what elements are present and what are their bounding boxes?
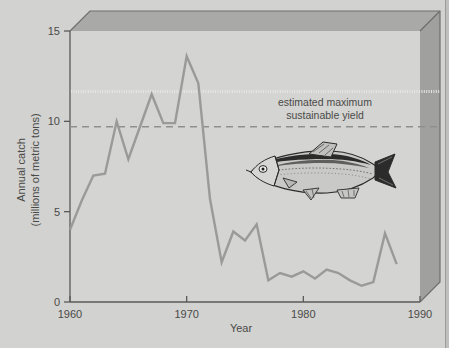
x-tick-label: 1990 xyxy=(408,308,432,320)
y-axis-tick-labels: 051015 xyxy=(48,25,60,308)
y-tick-label: 5 xyxy=(54,206,60,218)
y-tick-label: 10 xyxy=(48,115,60,127)
x-tick-label: 1960 xyxy=(58,308,82,320)
y-axis-ticks xyxy=(64,31,70,302)
y-tick-label: 15 xyxy=(48,25,60,37)
figure-anchoveta-catch-chart: 051015 1960197019801990 estimated maximu… xyxy=(0,0,449,348)
annotation-sustainable-yield: estimated maximum sustainable yield xyxy=(278,96,372,121)
x-tick-label: 1980 xyxy=(291,308,315,320)
x-axis-tick-labels: 1960197019801990 xyxy=(58,308,432,320)
x-tick-label: 1970 xyxy=(174,308,198,320)
box-side-face xyxy=(420,11,440,302)
page-right-border xyxy=(445,0,449,348)
box-top-face xyxy=(70,11,440,31)
annotation-line-1: estimated maximum xyxy=(278,96,372,108)
y-axis-title-line-1: Annual catch xyxy=(15,138,27,202)
annotation-line-2: sustainable yield xyxy=(286,109,364,121)
chart-3d-box xyxy=(70,11,440,302)
x-axis-title: Year xyxy=(230,322,253,334)
chart-canvas: 051015 1960197019801990 estimated maximu… xyxy=(0,0,449,348)
y-axis-title-line-2: (millions of metric tons) xyxy=(29,113,41,226)
y-tick-label: 0 xyxy=(54,296,60,308)
